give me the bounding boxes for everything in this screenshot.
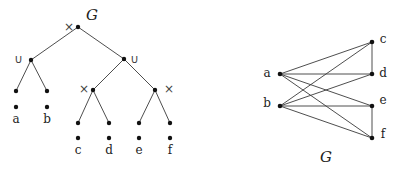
union-operator-label: ∪ (130, 52, 139, 66)
vertex-label-e: e (135, 143, 142, 157)
diagram-canvas: × ∪ ∪ × × a b c d e f G a b c d e (0, 0, 398, 174)
graph-edge-b-f (280, 106, 372, 138)
cotree: × ∪ ∪ × × a b c d e f G (12, 6, 174, 157)
graph-label-d: d (379, 66, 387, 80)
tree-node-root (76, 25, 80, 29)
vertex-label-d: d (105, 143, 113, 157)
graph-vertex-a (278, 72, 283, 77)
tree-node-join (91, 88, 95, 92)
vertex-dot (137, 136, 141, 140)
tree-title: G (86, 6, 98, 24)
graph-vertex-d (370, 72, 375, 77)
tree-leaf (107, 121, 111, 125)
graph-edge-a-c (280, 42, 372, 74)
graph-vertex-f (370, 136, 375, 141)
tree-node-join (153, 88, 157, 92)
tree-leaf (168, 121, 172, 125)
tree-leaf (137, 121, 141, 125)
vertex-label-a: a (12, 112, 19, 126)
vertex-dot (168, 136, 172, 140)
graph-vertex-c (370, 40, 375, 45)
tree-edge (124, 59, 155, 90)
vertex-dot (107, 136, 111, 140)
tree-edge (31, 60, 47, 91)
vertex-label-c: c (75, 143, 82, 157)
graph-vertex-b (278, 104, 283, 109)
join-operator-label: × (64, 20, 74, 34)
graph-label-a: a (263, 66, 270, 80)
tree-edge (78, 27, 124, 59)
join-operator-label: × (164, 82, 174, 96)
vertex-dot (14, 105, 18, 109)
tree-node-union (29, 58, 33, 62)
tree-edge (93, 90, 109, 123)
graph-label-b: b (263, 96, 271, 110)
tree-node-union (122, 57, 126, 61)
vertex-label-f: f (168, 143, 174, 157)
tree-edge (93, 59, 124, 90)
vertex-label-b: b (43, 112, 51, 126)
graph-label-e: e (379, 93, 386, 107)
join-operator-label: × (79, 82, 89, 96)
tree-leaf (76, 121, 80, 125)
tree-leaf (14, 89, 18, 93)
tree-edge (139, 90, 155, 123)
graph-label-c: c (380, 32, 387, 46)
vertex-dot (76, 136, 80, 140)
graph-title: G (320, 148, 332, 166)
vertex-dot (45, 105, 49, 109)
graph-vertex-e (370, 104, 375, 109)
graph-label-f: f (381, 127, 387, 141)
union-operator-label: ∪ (14, 52, 23, 66)
tree-leaf (45, 89, 49, 93)
graph-g: a b c d e f G (263, 32, 387, 166)
